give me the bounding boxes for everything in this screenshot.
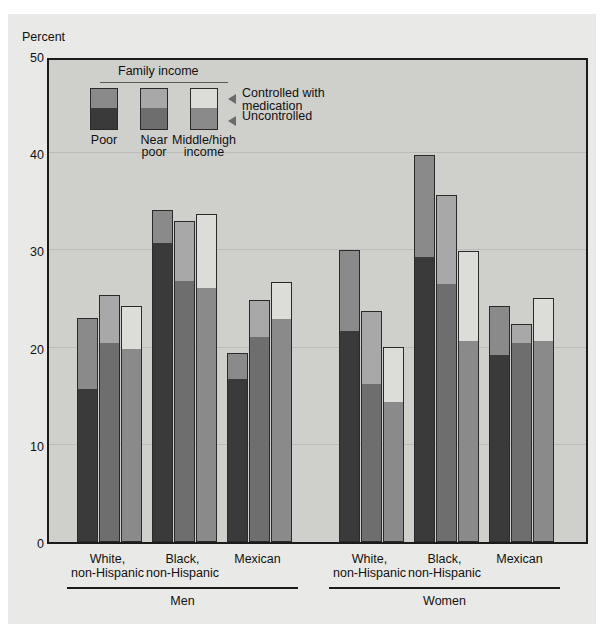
x-label-line1: White, (90, 552, 125, 566)
bar-segment-controlled (100, 296, 119, 345)
bar (489, 306, 510, 542)
bar-segment-controlled (78, 319, 97, 391)
bar-segment-controlled (362, 312, 381, 386)
bar (414, 155, 435, 542)
legend-swatch-controlled (141, 89, 167, 110)
bar-segment-controlled (153, 211, 172, 245)
bar (339, 250, 360, 542)
chart-page: Percent 01020304050 Family income PoorNe… (0, 0, 604, 632)
sex-group-label: Men (67, 594, 298, 608)
bar (383, 347, 404, 542)
gridline (49, 249, 586, 250)
bar-segment-uncontrolled (534, 341, 553, 541)
bar (227, 353, 248, 542)
y-axis-tick-label: 30 (30, 245, 44, 259)
legend-title: Family income (118, 64, 199, 78)
legend-swatch-uncontrolled (91, 108, 117, 129)
bar (77, 318, 98, 542)
cropped-header-text (96, 0, 276, 7)
bar-segment-controlled (459, 252, 478, 342)
bar (249, 300, 270, 542)
bar-segment-controlled (197, 215, 216, 290)
legend-arrow-uncontrolled-icon (228, 116, 236, 126)
legend-label-line2: income (184, 145, 224, 159)
x-label-line2: non-Hispanic (408, 566, 481, 580)
bar-segment-uncontrolled (175, 281, 194, 541)
bar (511, 324, 532, 542)
legend-arrow-controlled-icon (228, 94, 236, 104)
y-axis-tick-label: 50 (30, 51, 44, 65)
bar-segment-controlled (415, 156, 434, 259)
bar-segment-controlled (175, 222, 194, 283)
bar-segment-uncontrolled (415, 257, 434, 541)
y-axis-tick-label: 40 (30, 148, 44, 162)
x-label-line1: Black, (427, 552, 461, 566)
sex-group-rule (67, 587, 298, 589)
bar-segment-uncontrolled (228, 379, 247, 541)
legend-title-rule (100, 82, 228, 83)
bar-segment-controlled (534, 299, 553, 343)
x-axis-group-label: Mexican (460, 552, 580, 566)
bar (458, 251, 479, 542)
legend-series-uncontrolled: Uncontrolled (242, 110, 312, 123)
y-axis-tick-label: 10 (30, 440, 44, 454)
bar-segment-uncontrolled (272, 319, 291, 541)
bar (121, 306, 142, 542)
bar (99, 295, 120, 542)
bar-segment-uncontrolled (459, 341, 478, 541)
bar (533, 298, 554, 542)
bar-segment-uncontrolled (122, 349, 141, 541)
y-axis: 01020304050 (0, 0, 44, 632)
x-label-line1: Mexican (496, 552, 543, 566)
legend: Family income PoorNearpoorMiddle/highinc… (78, 64, 328, 142)
legend-swatch-controlled (191, 89, 217, 110)
bar (361, 311, 382, 542)
bar-segment-uncontrolled (78, 389, 97, 541)
bar-segment-controlled (384, 348, 403, 404)
bar-segment-controlled (340, 251, 359, 333)
bar-segment-uncontrolled (340, 331, 359, 541)
bar-segment-controlled (272, 283, 291, 321)
bar (436, 195, 457, 542)
bar-segment-uncontrolled (153, 243, 172, 541)
x-label-line1: Mexican (234, 552, 281, 566)
bar (152, 210, 173, 542)
sex-group-label: Women (329, 594, 560, 608)
bar-segment-uncontrolled (490, 355, 509, 541)
y-axis-tick-label: 0 (37, 537, 44, 551)
x-axis-group-label: Mexican (198, 552, 318, 566)
bar (271, 282, 292, 542)
y-axis-tick-label: 20 (30, 343, 44, 357)
legend-swatch-uncontrolled (141, 108, 167, 129)
legend-label-middle_high: Middle/highincome (172, 134, 236, 158)
sex-group-rule (329, 587, 560, 589)
legend-swatch-uncontrolled (191, 108, 217, 129)
bar-segment-uncontrolled (512, 343, 531, 541)
bar-segment-uncontrolled (437, 284, 456, 541)
bar-segment-uncontrolled (384, 402, 403, 541)
legend-label-line1: Poor (91, 133, 117, 147)
bar (174, 221, 195, 542)
bar-segment-controlled (122, 307, 141, 351)
legend-swatch-controlled (91, 89, 117, 110)
bar-segment-uncontrolled (250, 337, 269, 541)
x-label-line1: Black, (165, 552, 199, 566)
x-label-line1: White, (352, 552, 387, 566)
bar-segment-controlled (490, 307, 509, 358)
bar-segment-controlled (250, 301, 269, 339)
bar-segment-controlled (437, 196, 456, 286)
legend-swatch-poor (90, 88, 118, 130)
bar-segment-uncontrolled (197, 288, 216, 541)
bar-segment-controlled (228, 354, 247, 380)
legend-swatch-near_poor (140, 88, 168, 130)
bar-segment-uncontrolled (362, 384, 381, 541)
x-label-line2: non-Hispanic (146, 566, 219, 580)
legend-label-line2: poor (141, 145, 166, 159)
legend-swatch-middle_high (190, 88, 218, 130)
bar-segment-uncontrolled (100, 343, 119, 541)
bar (196, 214, 217, 542)
